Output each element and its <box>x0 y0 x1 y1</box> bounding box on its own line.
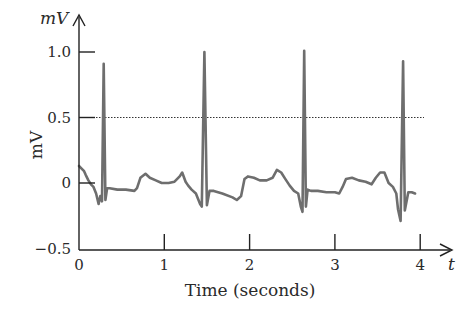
axes: −0.500.51.0 01234 <box>35 15 452 274</box>
x-tick-label: 1 <box>160 256 170 274</box>
y-tick-label: 1.0 <box>47 43 71 61</box>
y-tick-label: 0.5 <box>47 109 71 127</box>
ecg-trace <box>79 51 415 221</box>
x-tick-label: 4 <box>415 256 425 274</box>
x-ticks: 01234 <box>74 234 425 274</box>
y-tick-label: −0.5 <box>35 240 71 258</box>
x-tick-label: 0 <box>74 256 84 274</box>
y-tick-label: 0 <box>61 174 71 192</box>
x-tick-label: 3 <box>330 256 340 274</box>
x-axis-title: Time (seconds) <box>185 280 316 300</box>
x-axis-variable-label: t <box>448 254 455 274</box>
y-axis-variable-label: mV <box>40 8 70 28</box>
y-axis-title: mV <box>26 130 46 159</box>
ecg-chart: −0.500.51.0 01234 mV t mV Time (seconds) <box>0 0 469 316</box>
plot-area <box>79 51 424 221</box>
x-tick-label: 2 <box>245 256 255 274</box>
